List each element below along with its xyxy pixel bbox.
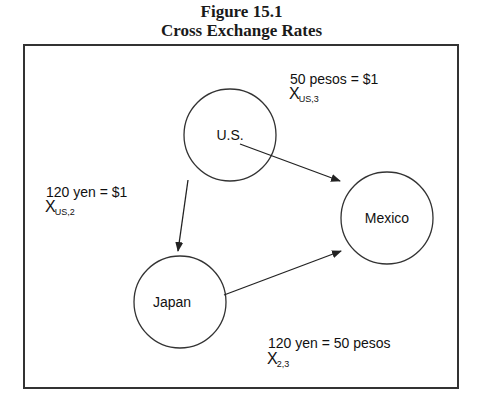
arrow-us-to-japan	[178, 180, 188, 251]
symbol-japan-mexico: X2,3	[267, 351, 289, 372]
node-japan: Japan	[134, 256, 226, 348]
rate-us-japan: 120 yen = $1	[46, 184, 127, 200]
node-mexico: Mexico	[341, 172, 433, 264]
rate-us-mexico: 50 pesos = $1	[290, 71, 378, 87]
node-us: U.S.	[184, 89, 276, 181]
rate-japan-mexico: 120 yen = 50 pesos	[268, 335, 391, 351]
symbol-us-mexico: XUS,3	[289, 86, 319, 107]
node-us-label: U.S.	[216, 127, 243, 143]
node-mexico-label: Mexico	[365, 210, 410, 226]
arrow-us-to-mexico	[240, 144, 340, 181]
node-japan-label: Japan	[153, 294, 191, 310]
arrow-japan-to-mexico	[224, 251, 341, 295]
symbol-us-japan: XUS,2	[45, 199, 75, 220]
